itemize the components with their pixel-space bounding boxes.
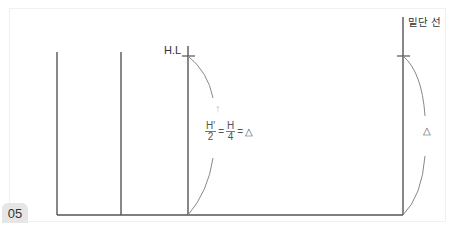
fraction-h-over-4: H 4	[226, 121, 235, 142]
middle-arc-lower	[188, 158, 213, 215]
diagram-canvas	[0, 0, 456, 228]
right-arc-lower	[403, 156, 425, 215]
baseline-label: 밑단 선	[408, 14, 441, 29]
high-water-label: H.L	[164, 44, 181, 56]
equals-sign: =	[218, 126, 224, 137]
delta-right-icon: △	[423, 125, 431, 136]
formula: H' 2 = H 4 = △	[205, 121, 253, 142]
fraction-h-prime-over-2: H' 2	[205, 121, 216, 142]
figure-number-badge: 05	[2, 203, 28, 223]
middle-arc-upper	[188, 56, 213, 98]
equals-sign: =	[237, 126, 243, 137]
up-arrow-icon: ↑	[215, 102, 221, 114]
figure-number: 05	[8, 206, 22, 221]
right-arc-upper	[403, 56, 425, 116]
delta-icon: △	[245, 126, 253, 137]
